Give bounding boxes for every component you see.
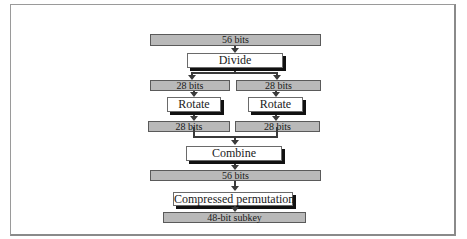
arrow-down-icon <box>231 140 239 145</box>
right-28-bits-before-rotate: 28 bits <box>236 80 321 91</box>
subkey-48-bit: 48-bit subkey <box>163 212 306 223</box>
left-28-bits-after-rotate: 28 bits <box>148 121 230 132</box>
left-28-bits-before-rotate: 28 bits <box>150 80 230 91</box>
rotate-right-step: Rotate <box>248 97 303 112</box>
combine-step: Combine <box>186 146 282 161</box>
compressed-permutation-step: Compressed permutation <box>173 192 293 206</box>
connector-line <box>191 72 278 74</box>
input-56-bits: 56 bits <box>150 34 321 46</box>
output-56-bits: 56 bits <box>150 170 321 181</box>
divide-step: Divide <box>187 53 283 68</box>
rotate-left-step: Rotate <box>167 97 221 112</box>
arrow-down-icon <box>231 186 239 191</box>
